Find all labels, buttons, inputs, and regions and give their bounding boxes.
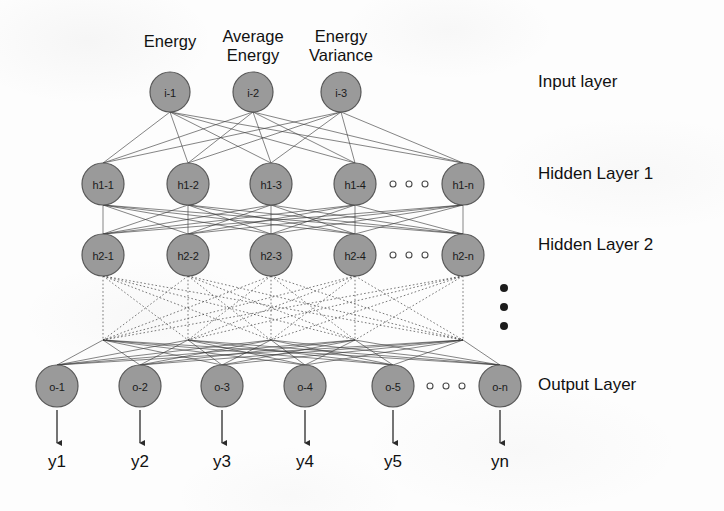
- edge-group-input-to-hidden1: [103, 112, 463, 163]
- node-o-3: o-3: [201, 365, 243, 407]
- output-label-yn: yn: [470, 452, 530, 472]
- ellipsis-dot-hidden2: [406, 252, 412, 258]
- node-h1-2: h1-2: [167, 163, 209, 205]
- node-h2-n: h2-n: [442, 234, 484, 276]
- node-o-n: o-n: [479, 365, 521, 407]
- node-i-3: i-3: [321, 72, 361, 112]
- node-o-2: o-2: [119, 365, 161, 407]
- node-label-h1-2: h1-2: [177, 179, 198, 191]
- node-label-h1-3: h1-3: [260, 179, 281, 191]
- ellipsis-dot-hidden1: [422, 181, 428, 187]
- vertical-ellipsis-dot: [500, 303, 508, 311]
- node-i-1: i-1: [150, 72, 190, 112]
- node-label-h1-4: h1-4: [344, 179, 365, 191]
- node-label-h1-n: h1-n: [452, 179, 473, 191]
- figure-canvas: i-1i-2i-3h1-1h1-2h1-3h1-4h1-nh2-1h2-2h2-…: [0, 0, 724, 511]
- ellipsis-dot-output: [427, 383, 433, 389]
- ellipsis-dot-output: [443, 383, 449, 389]
- node-o-1: o-1: [36, 365, 78, 407]
- output-label-y4: y4: [275, 452, 335, 472]
- node-o-4: o-4: [284, 365, 326, 407]
- node-label-h2-2: h2-2: [177, 250, 198, 262]
- node-label-h2-4: h2-4: [344, 250, 365, 262]
- node-label-o-1: o-1: [49, 381, 64, 393]
- node-h2-4: h2-4: [334, 234, 376, 276]
- output-label-y5: y5: [363, 452, 423, 472]
- output-label-y2: y2: [110, 452, 170, 472]
- layer-caption-input-layer: Input layer: [538, 72, 617, 92]
- node-label-o-5: o-5: [385, 381, 400, 393]
- ellipsis-dot-hidden2: [422, 252, 428, 258]
- ellipsis-dot-hidden2: [390, 252, 396, 258]
- node-i-2: i-2: [233, 72, 273, 112]
- output-label-y1: y1: [27, 452, 87, 472]
- node-label-i-2: i-2: [247, 87, 259, 99]
- layer-caption-output-layer: Output Layer: [538, 375, 636, 395]
- node-h1-4: h1-4: [334, 163, 376, 205]
- node-label-h2-3: h2-3: [260, 250, 281, 262]
- node-h1-1: h1-1: [82, 163, 124, 205]
- layer-caption-hidden-layer-1: Hidden Layer 1: [538, 164, 653, 184]
- node-label-o-4: o-4: [297, 381, 312, 393]
- output-arrow-group: [57, 410, 500, 443]
- node-h1-n: h1-n: [442, 163, 484, 205]
- vertical-ellipsis-dot: [500, 284, 508, 292]
- ellipsis-dot-hidden1: [406, 181, 412, 187]
- node-o-5: o-5: [372, 365, 414, 407]
- ellipsis-dot-hidden1: [390, 181, 396, 187]
- edge-group-junction-to-output: [57, 340, 500, 365]
- node-label-o-n: o-n: [492, 381, 507, 393]
- node-label-i-1: i-1: [164, 87, 176, 99]
- edge-group-hidden2-to-junction: [103, 276, 463, 340]
- vertical-ellipsis-dot: [500, 322, 508, 330]
- input-caption-2: Energy Variance: [271, 27, 411, 65]
- layer-caption-hidden-layer-2: Hidden Layer 2: [538, 235, 653, 255]
- node-h2-1: h2-1: [82, 234, 124, 276]
- node-label-o-3: o-3: [214, 381, 229, 393]
- node-h1-3: h1-3: [250, 163, 292, 205]
- node-h2-2: h2-2: [167, 234, 209, 276]
- node-label-h1-1: h1-1: [92, 179, 113, 191]
- edge-group-hidden1-to-hidden2: [103, 205, 463, 234]
- output-label-y3: y3: [192, 452, 252, 472]
- ellipsis-dot-output: [459, 383, 465, 389]
- node-label-h2-n: h2-n: [452, 250, 473, 262]
- node-group: i-1i-2i-3h1-1h1-2h1-3h1-4h1-nh2-1h2-2h2-…: [36, 72, 521, 407]
- node-label-o-2: o-2: [132, 381, 147, 393]
- node-label-i-3: i-3: [335, 87, 347, 99]
- node-label-h2-1: h2-1: [92, 250, 113, 262]
- node-h2-3: h2-3: [250, 234, 292, 276]
